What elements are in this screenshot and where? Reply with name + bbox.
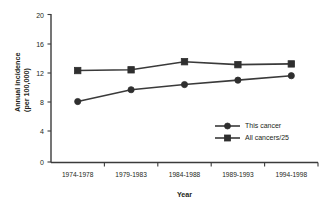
y-tick-label-20: 20 — [36, 12, 44, 19]
line-chart: Annual incidence (per 100,000) 20 16 12 … — [0, 0, 329, 211]
y-axis-title-line2: (per 100,000) — [22, 67, 31, 112]
x-tick-label-2: 1984-1988 — [169, 171, 201, 178]
x-tick-label-3: 1989-1993 — [222, 171, 254, 178]
y-axis — [48, 14, 52, 163]
y-tick-label-8: 8 — [40, 99, 44, 106]
series-line — [78, 76, 292, 102]
data-point-circle — [235, 77, 241, 83]
y-axis-tick-labels: 20 16 12 8 4 0 — [36, 12, 44, 166]
legend-square-marker-icon — [225, 135, 231, 141]
data-point-circle — [128, 87, 134, 93]
x-axis — [51, 163, 318, 167]
x-axis-tick-labels: 1974-1978 1979-1983 1984-1988 1989-1993 … — [62, 171, 307, 178]
legend-label-all-cancers: All cancers/25 — [245, 134, 289, 141]
legend-label-this-cancer: This cancer — [245, 122, 282, 129]
y-axis-title-line1: Annual incidence — [13, 52, 22, 112]
data-point-square — [75, 67, 81, 73]
chart-container: Annual incidence (per 100,000) 20 16 12 … — [0, 0, 329, 211]
data-point-circle — [288, 73, 294, 79]
y-tick-label-4: 4 — [40, 128, 44, 135]
x-tick-label-1: 1979-1983 — [115, 171, 147, 178]
data-point-circle — [75, 98, 81, 104]
legend-item-all-cancers: All cancers/25 — [215, 134, 289, 141]
x-tick-label-4: 1994-1998 — [276, 171, 308, 178]
data-point-square — [288, 61, 294, 67]
y-axis-title: Annual incidence (per 100,000) — [13, 52, 31, 112]
legend: This cancer All cancers/25 — [215, 122, 289, 141]
y-tick-label-12: 12 — [36, 70, 44, 77]
data-point-square — [181, 59, 187, 65]
data-point-square — [235, 61, 241, 67]
y-tick-label-0: 0 — [40, 159, 44, 166]
x-axis-title: Year — [177, 190, 192, 199]
series-all-cancers — [75, 59, 295, 74]
data-point-square — [128, 67, 134, 73]
series-this-cancer — [75, 73, 295, 105]
series-layer — [75, 59, 295, 105]
data-point-circle — [181, 81, 187, 87]
x-tick-label-0: 1974-1978 — [62, 171, 94, 178]
legend-item-this-cancer: This cancer — [215, 122, 282, 129]
legend-circle-marker-icon — [225, 123, 231, 129]
y-tick-label-16: 16 — [36, 41, 44, 48]
